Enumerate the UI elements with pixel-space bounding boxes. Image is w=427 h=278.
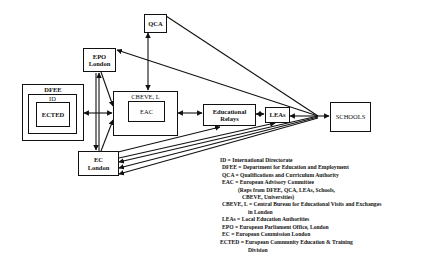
ec-label-line2: London <box>88 164 110 172</box>
legend-ec: EC = European Commission London <box>222 231 427 238</box>
legend-ected-cont: Division <box>222 247 427 254</box>
qca-label: QCA <box>148 20 162 28</box>
ec-london-node: EC London <box>78 151 119 176</box>
ec-label-line1: EC <box>94 156 103 164</box>
legend-cbeve-cont: in London <box>222 209 427 216</box>
dfee-label: DFEE <box>22 86 84 93</box>
ected-node: ECTED <box>36 102 70 127</box>
qca-node: QCA <box>144 14 167 33</box>
legend-eac-note1: (Reps from DFEE, QCA, LEAs, Schools, <box>222 187 427 194</box>
leas-node: LEAs <box>265 107 290 123</box>
legend-leas: LEAs = Local Education Authorities <box>222 216 427 223</box>
eac-node: EAC <box>128 101 165 122</box>
legend-id: ID = International Directorate <box>220 157 427 164</box>
id-label: ID <box>28 95 77 102</box>
legend-epo: EPO = European Parliament Office, London <box>222 224 427 231</box>
educational-relays-node: Educational Relays <box>203 104 256 126</box>
epo-label-line1: EPO <box>93 53 106 61</box>
ec-cbeve-arrow <box>101 120 113 151</box>
epo-label-line2: London <box>89 60 111 68</box>
legend-qca: QCA = Qualifications and Curriculum Auth… <box>222 172 427 179</box>
epo-london-node: EPO London <box>83 48 116 72</box>
leas-label: LEAs <box>270 111 286 119</box>
legend-dfee: DFEE = Department for Education and Empl… <box>222 164 427 171</box>
legend-eac: EAC = European Advisory Committee <box>222 179 427 186</box>
relays-label-line2: Relays <box>220 115 238 123</box>
cbeve-label: CBEVE, L <box>113 93 178 100</box>
relays-label-line1: Educational <box>213 108 247 116</box>
epo-cbeve-arrow <box>101 72 113 106</box>
ected-label: ECTED <box>42 111 64 119</box>
qca-hub-line <box>166 16 318 116</box>
schools-label: SCHOOLS <box>336 113 366 121</box>
legend-eac-note2: CBEVE, Universities) <box>222 194 427 201</box>
legend-ected: ECTED = European Community Education & T… <box>220 239 427 246</box>
legend: ID = International Directorate DFEE = De… <box>222 157 427 254</box>
eac-label: EAC <box>140 108 153 116</box>
legend-cbeve: CBEVE, L = Central Bureau for Educationa… <box>222 201 427 208</box>
schools-node: SCHOOLS <box>330 102 371 132</box>
